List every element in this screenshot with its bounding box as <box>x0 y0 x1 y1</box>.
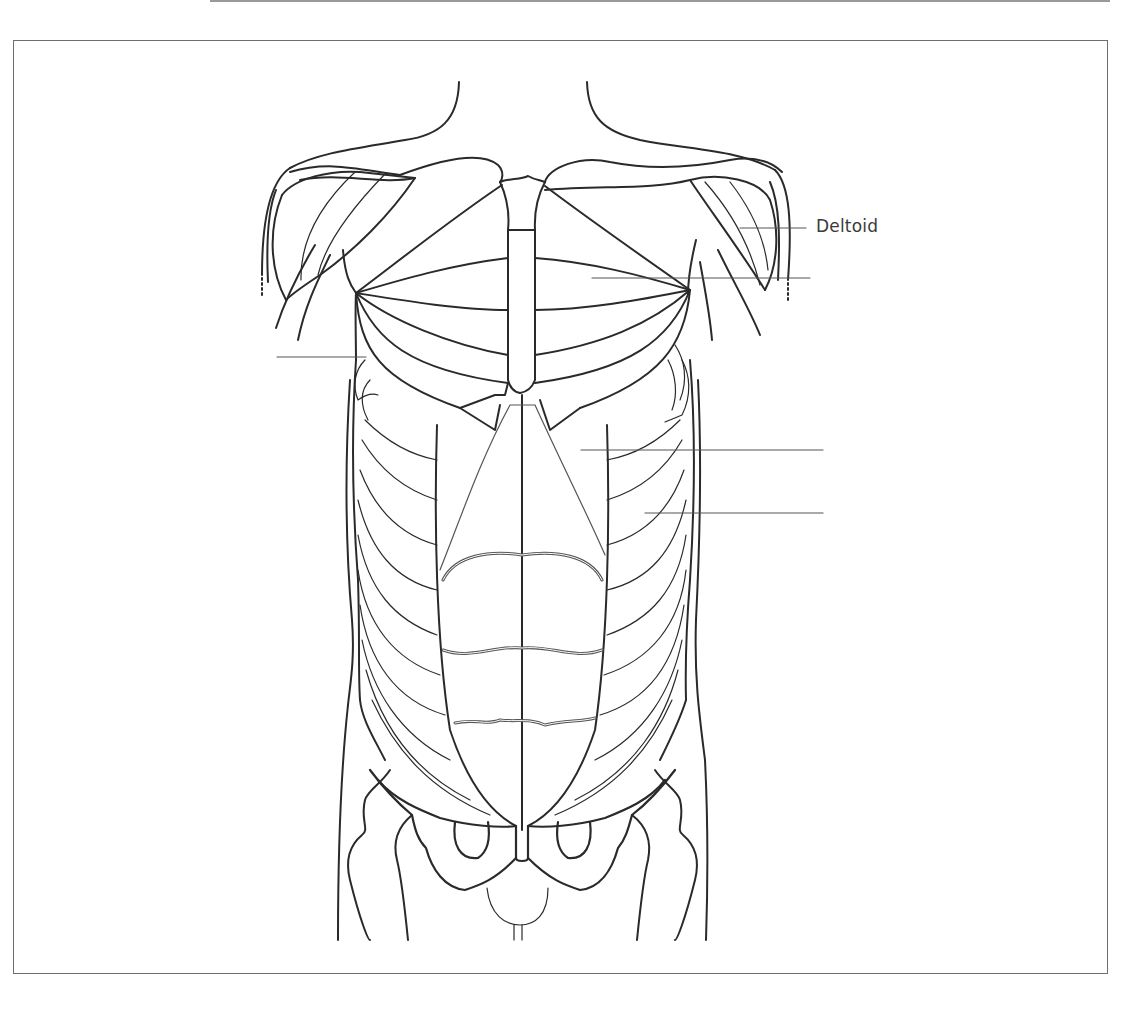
groin-outline <box>487 888 548 940</box>
pectoralis-right <box>535 186 690 430</box>
upper-arm-right <box>688 240 760 340</box>
flank-right <box>660 360 705 760</box>
external-oblique-left <box>358 420 490 815</box>
sternum <box>500 182 545 393</box>
pectoralis-left <box>356 185 508 430</box>
external-oblique-right <box>555 420 686 815</box>
femur-left <box>348 770 412 940</box>
rectus-abdominis <box>436 395 608 830</box>
femur-right <box>632 770 697 940</box>
leader-lines <box>277 228 823 513</box>
deltoid-right-striations <box>705 182 768 285</box>
serratus-right <box>665 345 689 422</box>
deltoid-left <box>273 172 415 300</box>
neck-outline <box>290 82 775 170</box>
shoulder-outline <box>262 168 790 282</box>
serratus-left <box>355 360 378 420</box>
label-deltoid: Deltoid <box>816 216 878 236</box>
deltoid-left-striations <box>301 172 385 280</box>
torso-muscle-diagram <box>0 0 1141 1018</box>
arm-cut-markers <box>262 278 788 301</box>
upper-arm-left <box>276 245 356 340</box>
